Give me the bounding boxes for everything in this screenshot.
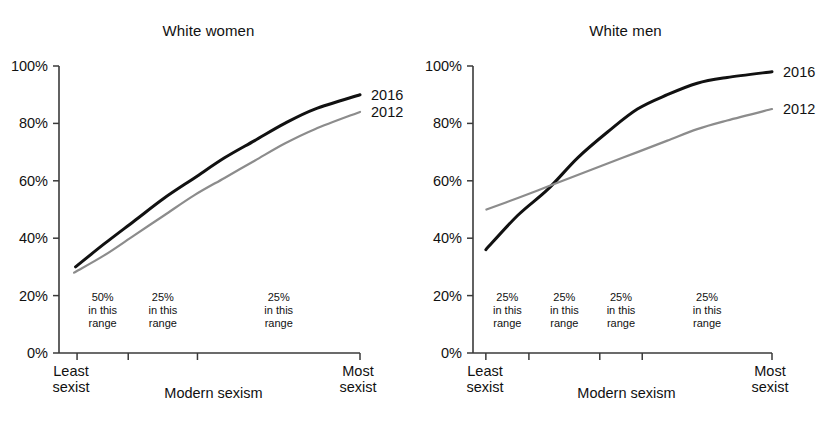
range-note-pct: 25%	[152, 291, 174, 303]
plot-area: 0%20%40%60%80%100%25%in thisrange25%in t…	[417, 0, 834, 428]
range-note-pct: 25%	[268, 291, 290, 303]
y-tick-label: 80%	[433, 115, 462, 131]
range-note-pct: 25%	[696, 291, 718, 303]
x-axis-title: Modern sexism	[577, 385, 675, 401]
range-note-line2: in this	[88, 304, 117, 316]
x-end-label-line1: Most	[342, 363, 373, 379]
y-tick-label: 80%	[19, 115, 48, 131]
range-note-line2: in this	[264, 304, 293, 316]
x-axis-captions: LeastsexistMostsexistModern sexism	[466, 363, 788, 401]
range-note-pct: 25%	[553, 291, 575, 303]
series-label-2016: 2016	[783, 64, 815, 80]
series-line-2012	[74, 112, 360, 273]
panel-white-men: White men 0%20%40%60%80%100%25%in thisra…	[417, 0, 834, 428]
range-note-pct: 25%	[496, 291, 518, 303]
series-label-2016: 2016	[371, 87, 403, 103]
y-tick-label: 60%	[433, 173, 462, 189]
range-note-line3: range	[493, 317, 521, 329]
series-lines: 20162012	[74, 87, 403, 273]
series-label-2012: 2012	[783, 101, 815, 117]
series-line-2012	[486, 109, 772, 209]
range-note-line2: in this	[693, 304, 722, 316]
range-note-line3: range	[89, 317, 117, 329]
x-start-label-line2: sexist	[466, 379, 503, 395]
range-note-pct: 25%	[610, 291, 632, 303]
y-tick-label: 0%	[441, 345, 462, 361]
y-tick-label: 100%	[11, 58, 48, 74]
x-start-label-line1: Least	[467, 363, 502, 379]
y-tick-label: 60%	[19, 173, 48, 189]
range-note-line2: in this	[550, 304, 579, 316]
range-note-line3: range	[550, 317, 578, 329]
y-tick-label: 0%	[27, 345, 48, 361]
x-end-label-line2: sexist	[339, 379, 376, 395]
series-lines: 20162012	[486, 64, 815, 250]
percentile-band-notes: 50%in thisrange25%in thisrange25%in this…	[88, 291, 293, 329]
y-tick-label: 20%	[19, 288, 48, 304]
range-note-line2: in this	[607, 304, 636, 316]
figure-two-panel-chart: White women 0%20%40%60%80%100%50%in this…	[0, 0, 835, 428]
plot-area: 0%20%40%60%80%100%50%in thisrange25%in t…	[0, 0, 417, 428]
y-tick-label: 100%	[425, 58, 462, 74]
range-note-pct: 50%	[92, 291, 114, 303]
x-start-label-line2: sexist	[52, 379, 89, 395]
y-tick-label: 40%	[433, 230, 462, 246]
y-tick-label: 40%	[19, 230, 48, 246]
series-label-2012: 2012	[371, 104, 403, 120]
y-tick-label: 20%	[433, 288, 462, 304]
range-note-line3: range	[693, 317, 721, 329]
panel-white-women: White women 0%20%40%60%80%100%50%in this…	[0, 0, 417, 428]
series-line-2016	[486, 72, 772, 250]
x-end-label-line1: Most	[754, 363, 785, 379]
x-start-label-line1: Least	[53, 363, 88, 379]
x-axis-title: Modern sexism	[164, 385, 262, 401]
x-end-label-line2: sexist	[751, 379, 788, 395]
range-note-line3: range	[149, 317, 177, 329]
x-axis-captions: LeastsexistMostsexistModern sexism	[52, 363, 376, 401]
percentile-band-notes: 25%in thisrange25%in thisrange25%in this…	[493, 291, 722, 329]
range-note-line2: in this	[493, 304, 522, 316]
range-note-line3: range	[265, 317, 293, 329]
range-note-line3: range	[607, 317, 635, 329]
range-note-line2: in this	[148, 304, 177, 316]
axes: 0%20%40%60%80%100%	[11, 58, 360, 361]
